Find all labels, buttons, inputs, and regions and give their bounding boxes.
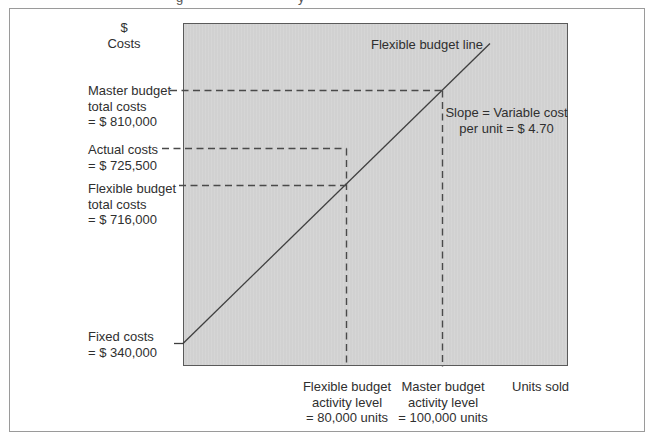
- figure-page: g y $ Costs Master budget total costs = …: [0, 0, 657, 444]
- x-axis-title: Units sold: [512, 379, 569, 395]
- cropped-caption: g y: [0, 0, 657, 6]
- label-line: = $ 725,500: [88, 158, 158, 174]
- label-line: Master budget: [383, 379, 503, 395]
- label-line: Flexible budget line: [357, 37, 483, 53]
- label-line: = 100,000 units: [383, 410, 503, 426]
- label-line: activity level: [383, 395, 503, 411]
- fixed-costs-label: Fixed costs = $ 340,000: [88, 329, 157, 360]
- label-line: Actual costs: [88, 142, 158, 158]
- label-line: Units sold: [512, 379, 569, 395]
- label-line: = $ 340,000: [88, 345, 157, 361]
- flexible-budget-costs-label: Flexible budget total costs = $ 716,000: [88, 181, 176, 228]
- actual-costs-label: Actual costs = $ 725,500: [88, 142, 158, 173]
- plot-area: [183, 23, 568, 366]
- label-line: total costs: [88, 197, 176, 213]
- label-line: Slope = Variable cost: [443, 105, 570, 121]
- label-line: Fixed costs: [88, 329, 157, 345]
- caption-fragment: y: [298, 0, 305, 5]
- label-line: Costs: [96, 36, 152, 52]
- label-line: total costs: [88, 99, 171, 115]
- label-line: Master budget: [88, 83, 171, 99]
- master-budget-costs-label: Master budget total costs = $ 810,000: [88, 83, 171, 130]
- label-line: = $ 810,000: [88, 114, 171, 130]
- label-line: per unit = $ 4.70: [443, 121, 570, 137]
- y-axis-title: $ Costs: [96, 20, 152, 51]
- caption-fragment: g: [176, 0, 183, 5]
- label-line: $: [96, 20, 152, 36]
- label-line: = $ 716,000: [88, 212, 176, 228]
- label-line: Flexible budget: [88, 181, 176, 197]
- master-activity-label: Master budget activity level = 100,000 u…: [383, 379, 503, 426]
- slope-annotation: Slope = Variable cost per unit = $ 4.70: [443, 105, 570, 136]
- line-annotation: Flexible budget line: [357, 37, 483, 53]
